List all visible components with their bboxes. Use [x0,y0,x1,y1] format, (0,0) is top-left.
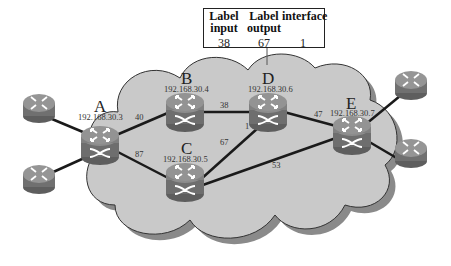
link-label-c-d: 67 [220,138,229,147]
value-label-output: 67 [248,37,280,49]
router-icon [395,139,427,168]
router-icon [395,71,427,100]
node-d-ip: 192.168.30.6 [248,85,293,94]
link-label-a-b: 40 [135,113,144,122]
node-c-ip: 192.168.30.5 [163,155,208,164]
router-switch-icon-a [81,126,119,165]
header-label-input: Label input [206,10,242,34]
router-switch-icon-e [333,116,371,155]
link-label-c-e: 53 [272,161,281,170]
link-label-d-e: 47 [314,110,323,119]
header-line: output [244,22,284,34]
router-switch-icon-d [249,93,287,132]
header-interface: interface [282,10,326,22]
header-line: input [206,22,242,34]
router-icon [23,94,55,123]
node-e-ip: 192.168.30.7 [330,109,375,118]
node-b-ip: 192.168.30.4 [164,85,209,94]
value-label-input: 38 [210,37,238,49]
link-label-d-interface: 1 [245,122,249,131]
link-label-b-d: 38 [220,101,229,110]
label-table: Label input Label output interface 38 67… [203,8,325,48]
value-interface: 1 [288,37,318,49]
router-icon [23,165,55,194]
router-switch-icon-b [166,93,204,132]
router-switch-icon-c [166,163,204,202]
header-line: interface [282,10,326,22]
node-a-ip: 192.168.30.3 [78,113,123,122]
link-label-a-c: 87 [135,150,144,159]
header-label-output: Label output [244,10,284,34]
